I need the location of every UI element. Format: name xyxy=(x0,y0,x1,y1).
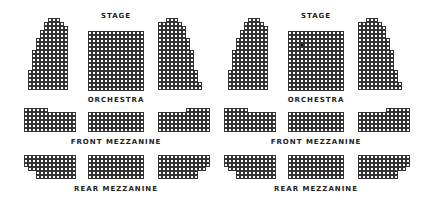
orchestra-label: Orchestra xyxy=(88,96,145,104)
seat[interactable] xyxy=(406,163,410,167)
seat[interactable] xyxy=(402,167,406,171)
seat[interactable] xyxy=(198,86,202,90)
seat[interactable] xyxy=(64,86,68,90)
seat[interactable] xyxy=(206,128,210,132)
seat[interactable] xyxy=(140,128,144,132)
seat[interactable] xyxy=(340,128,344,132)
seating-chart-right: Stage Orchestra Front Mezzanine Rear Mez… xyxy=(214,0,428,204)
seat[interactable] xyxy=(72,175,76,179)
seat[interactable] xyxy=(394,175,398,179)
front-mezzanine-label: Front Mezzanine xyxy=(271,138,362,146)
front-mezzanine-label: Front Mezzanine xyxy=(71,138,162,146)
seat[interactable] xyxy=(194,175,198,179)
seat[interactable] xyxy=(406,128,410,132)
seat[interactable] xyxy=(202,167,206,171)
seat[interactable] xyxy=(140,175,144,179)
seat[interactable] xyxy=(340,87,344,91)
rear-mezzanine-label: Rear Mezzanine xyxy=(274,185,358,193)
seat[interactable] xyxy=(340,175,344,179)
seat[interactable] xyxy=(206,163,210,167)
seat[interactable] xyxy=(272,175,276,179)
seat[interactable] xyxy=(264,86,268,90)
seat[interactable] xyxy=(72,128,76,132)
seating-chart-left: Stage Orchestra Front Mezzanine Rear Mez… xyxy=(0,0,214,204)
seat[interactable] xyxy=(272,128,276,132)
seat[interactable] xyxy=(140,87,144,91)
rear-mezzanine-label: Rear Mezzanine xyxy=(74,185,158,193)
stage-label: Stage xyxy=(101,12,131,20)
seat[interactable] xyxy=(398,86,402,90)
orchestra-label: Orchestra xyxy=(288,96,345,104)
stage-label: Stage xyxy=(301,12,331,20)
